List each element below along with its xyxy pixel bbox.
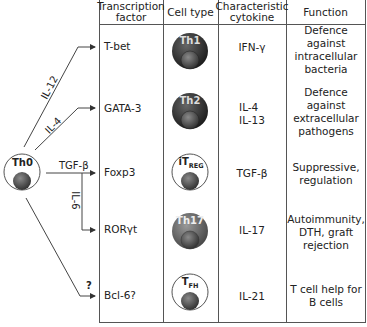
table-border-right bbox=[365, 0, 366, 323]
column-divider bbox=[163, 0, 164, 323]
function-th17: Autoimmunity, DTH, graft rejection bbox=[288, 212, 364, 252]
cytokine-tgfb: TGF-β bbox=[218, 166, 286, 180]
function-th2: Defence against extracellular pathogens bbox=[288, 92, 364, 132]
function-itreg: Suppressive, regulation bbox=[288, 160, 364, 188]
arrow-bcl6 bbox=[26, 198, 95, 296]
cell-label-th1: Th1 bbox=[177, 35, 203, 46]
header-cytokine: Characteristic cytokine bbox=[218, 0, 286, 24]
arrow-il12 bbox=[24, 47, 95, 147]
tf-bcl6: Bcl-6? bbox=[104, 289, 136, 301]
arrow-il6 bbox=[82, 173, 95, 230]
function-th1: Defence against intracellular bacteria bbox=[288, 30, 364, 70]
signal-il6: IL-6 bbox=[70, 191, 81, 209]
signal-unknown: ? bbox=[86, 280, 92, 291]
signal-tgfb: TGF-β bbox=[59, 160, 89, 171]
cell-label-itreg: iTREG bbox=[174, 156, 208, 170]
table-border-bottom bbox=[99, 322, 366, 323]
th0-label: Th0 bbox=[12, 157, 33, 168]
cytokine-il4-il13: IL-4 IL-13 bbox=[218, 100, 286, 128]
cell-label-tfh: TFH bbox=[176, 276, 204, 290]
header-cell-type: Cell type bbox=[163, 0, 218, 24]
tf-tbet: T-bet bbox=[104, 40, 130, 52]
cell-label-th17: Th17 bbox=[175, 215, 205, 226]
tf-gata3: GATA-3 bbox=[104, 102, 142, 114]
cytokine-il21: IL-21 bbox=[218, 289, 286, 303]
cell-label-th2: Th2 bbox=[177, 95, 203, 106]
column-divider bbox=[286, 0, 287, 323]
header-function: Function bbox=[286, 0, 365, 24]
header-transcription-factor: Transcription factor bbox=[99, 0, 163, 24]
cytokine-il17: IL-17 bbox=[218, 223, 286, 237]
tf-foxp3: Foxp3 bbox=[104, 166, 135, 178]
tf-rorgt: RORγt bbox=[104, 223, 137, 235]
cytokine-ifng: IFN-γ bbox=[218, 40, 286, 54]
table-border-left bbox=[99, 0, 100, 323]
function-tfh: T cell help for B cells bbox=[288, 282, 364, 310]
